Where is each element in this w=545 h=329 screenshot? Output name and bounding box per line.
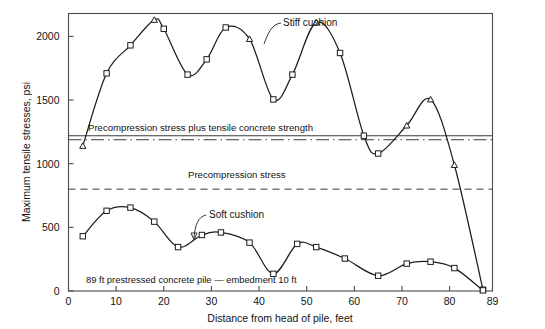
data-point-marker (342, 256, 347, 261)
data-point-marker (480, 288, 485, 293)
data-point-marker (428, 259, 433, 264)
x-axis-title: Distance from head of pile, feet (207, 312, 352, 324)
y-axis-ticks (69, 36, 74, 291)
x-axis-ticks (69, 286, 493, 291)
data-point-marker (80, 234, 85, 239)
curve-stiff-cushion (83, 19, 483, 290)
data-point-marker (223, 25, 228, 30)
data-point-marker (104, 71, 109, 76)
stiff-cushion-leader-line (264, 23, 281, 44)
data-point-marker (175, 244, 180, 249)
data-point-marker (451, 162, 457, 168)
y-tick-label-1000: 1000 (36, 158, 60, 170)
x-axis-tick-labels: 0102030405060708089 (66, 295, 499, 307)
data-series-layer (80, 17, 486, 293)
x-tick-label-30: 30 (206, 295, 218, 307)
data-point-marker (294, 241, 299, 246)
data-point-marker (152, 219, 157, 224)
data-point-marker (404, 261, 409, 266)
series-stiff-cushion (80, 17, 486, 293)
x-tick-label-80: 80 (444, 295, 456, 307)
y-axis-title: Maximum tensile stresses, psi (20, 82, 32, 222)
data-point-marker (375, 273, 380, 278)
chart-figure: 0102030405060708089 0500100015002000 Pre… (0, 0, 545, 329)
data-point-marker (290, 72, 295, 77)
data-point-marker (199, 232, 204, 237)
data-point-marker (271, 97, 276, 102)
data-point-marker (104, 208, 109, 213)
y-tick-label-500: 500 (42, 221, 60, 233)
soft-cushion-label: Soft cushion (209, 209, 264, 220)
precompression-plus-tensile-label: Precompression stress plus tensile concr… (88, 122, 313, 133)
plot-frame (69, 14, 493, 292)
pile-note: 89 ft prestressed concrete pile — embedm… (86, 274, 297, 285)
x-tick-label-50: 50 (301, 295, 313, 307)
x-tick-label-89: 89 (487, 295, 499, 307)
data-point-marker (128, 205, 133, 210)
stiff-cushion-label: Stiff cushion (283, 17, 337, 28)
y-tick-label-0: 0 (54, 285, 60, 297)
data-point-marker (337, 50, 342, 55)
x-tick-label-70: 70 (396, 295, 408, 307)
data-point-marker (361, 133, 366, 138)
y-axis-tick-labels: 0500100015002000 (36, 30, 60, 297)
data-point-marker (427, 96, 433, 102)
data-point-marker (247, 240, 252, 245)
data-point-marker (161, 26, 166, 31)
y-tick-label-2000: 2000 (36, 30, 60, 42)
data-point-marker (185, 72, 190, 77)
data-point-marker (80, 143, 86, 149)
x-tick-label-20: 20 (158, 295, 170, 307)
x-tick-label-10: 10 (110, 295, 122, 307)
data-point-marker (128, 43, 133, 48)
x-tick-label-60: 60 (348, 295, 360, 307)
y-tick-label-1500: 1500 (36, 94, 60, 106)
data-point-marker (218, 230, 223, 235)
data-point-marker (375, 151, 380, 156)
data-point-marker (452, 265, 457, 270)
x-tick-label-0: 0 (66, 295, 72, 307)
stress-vs-distance-chart: 0102030405060708089 0500100015002000 Pre… (0, 0, 545, 329)
data-point-marker (204, 57, 209, 62)
data-point-marker (314, 244, 319, 249)
precompression-label: Precompression stress (188, 169, 286, 180)
x-tick-label-40: 40 (253, 295, 265, 307)
reference-lines (69, 136, 493, 189)
